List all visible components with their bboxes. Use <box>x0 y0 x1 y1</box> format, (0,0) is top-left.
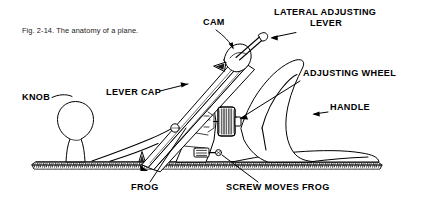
screw-moves-frog-part <box>194 148 222 157</box>
arrowhead-lever-cap <box>181 82 189 87</box>
label-cam: CAM <box>203 17 225 27</box>
plane-diagram-canvas: Fig. 2-14. The anatomy of a plane. <box>0 0 426 208</box>
figure-caption: Fig. 2-14. The anatomy of a plane. <box>22 26 138 35</box>
label-handle: HANDLE <box>330 102 370 112</box>
label-lateral-adjusting-lever-line2: LEVER <box>310 18 342 28</box>
arrowhead-lateral-adjusting-lever <box>270 35 277 40</box>
leader-knob <box>52 95 72 98</box>
sole-texture <box>33 163 382 169</box>
label-knob: KNOB <box>22 92 50 102</box>
sole-lug-front <box>139 152 145 162</box>
figure-anatomy-of-a-plane: Fig. 2-14. The anatomy of a plane. <box>0 0 426 208</box>
label-lateral-adjusting-lever-line1: LATERAL ADJUSTING <box>274 7 376 17</box>
plane-sole <box>32 162 382 169</box>
label-adjusting-wheel: ADJUSTING WHEEL <box>303 68 396 78</box>
arrowhead-handle <box>312 112 319 117</box>
label-screw-moves-frog: SCREW MOVES FROG <box>226 182 330 192</box>
label-frog: FROG <box>131 182 159 192</box>
plane-knob <box>58 102 94 162</box>
label-lever-cap: LEVER CAP <box>106 87 161 97</box>
